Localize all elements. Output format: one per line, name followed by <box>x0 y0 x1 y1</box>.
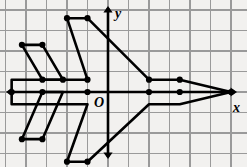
vertex-dot <box>228 89 234 95</box>
vertex-dot <box>39 42 45 48</box>
vertex-dot <box>39 89 45 95</box>
graph-canvas: O x y <box>0 0 247 167</box>
vertex-dot <box>84 77 90 83</box>
vertex-dot <box>19 42 25 48</box>
vertex-dot <box>60 77 66 83</box>
vertex-dot <box>177 77 183 83</box>
vertex-dot <box>9 89 15 95</box>
vertex-dot <box>84 15 90 21</box>
origin-label: O <box>94 95 104 110</box>
vertex-dot <box>84 159 90 165</box>
vertex-dot <box>19 136 25 142</box>
x-axis-label: x <box>232 100 240 115</box>
vertex-dot <box>146 77 152 83</box>
vertex-dot <box>84 89 90 95</box>
vertex-dot <box>39 77 45 83</box>
vertex-dot <box>177 89 183 95</box>
y-axis-label: y <box>113 6 122 21</box>
vertex-dot <box>146 89 152 95</box>
vertex-dot <box>64 15 70 21</box>
vertex-dot <box>64 159 70 165</box>
vertex-dot <box>39 136 45 142</box>
coordinate-plane-figure: O x y <box>0 0 247 167</box>
